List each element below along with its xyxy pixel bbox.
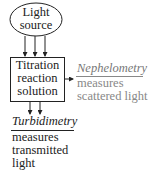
reaction-box-label: Titration reaction solution [10, 59, 65, 98]
nephelometry-line2: scattered light [77, 90, 147, 103]
nephelometry-description: measures scattered light [77, 77, 147, 103]
reaction-line3: solution [10, 85, 65, 98]
light-source-line2: source [10, 19, 62, 32]
turbidimetry-title: Turbidimetry [12, 115, 77, 128]
turbidimetry-description: measures transmitted light [12, 131, 68, 170]
turbidimetry-line3: light [12, 157, 68, 170]
nephelometry-title: Nephelometry [77, 62, 147, 75]
light-source-label: Light source [10, 6, 62, 32]
